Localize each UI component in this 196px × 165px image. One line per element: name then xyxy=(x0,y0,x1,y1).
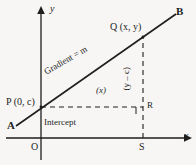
y-axis xyxy=(37,6,45,160)
label-point-r: R xyxy=(147,101,153,110)
label-intercept: Intercept xyxy=(44,118,76,127)
label-point-b: B xyxy=(176,6,183,17)
label-point-s: S xyxy=(139,142,145,152)
label-origin: O xyxy=(31,142,38,152)
label-point-q: Q (x, y) xyxy=(110,22,141,32)
label-point-a: A xyxy=(7,120,15,131)
graph-canvas xyxy=(0,0,196,165)
label-horizontal-run: (x) xyxy=(96,86,106,95)
line-graph-figure: B A y x O S R P (0, c) Q (x, y) Intercep… xyxy=(0,0,196,165)
label-x-axis: x xyxy=(184,131,188,141)
label-point-p: P (0, c) xyxy=(6,97,35,107)
label-y-axis: y xyxy=(50,4,54,14)
label-vertical-rise: (y – c) xyxy=(122,67,131,91)
